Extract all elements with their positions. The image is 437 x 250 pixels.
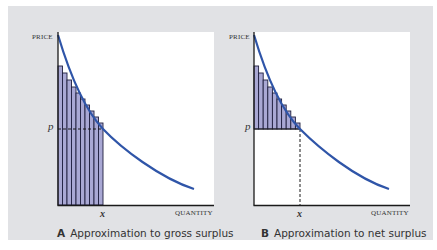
panel-b-y-axis-label: PRICE <box>229 33 250 41</box>
panel-a-caption-text: Approximation to gross surplus <box>70 227 233 239</box>
panel-b-letter: B <box>261 227 269 239</box>
panel-b-price-label: p <box>245 120 251 132</box>
panel-a-caption: AApproximation to gross surplus <box>57 227 234 239</box>
panel-a-x-axis-label: QUANTITY <box>175 209 213 217</box>
panel-a-price-label: p <box>48 120 54 132</box>
panel-b-caption: BApproximation to net surplus <box>261 227 427 239</box>
panel-b-quantity-label: x <box>297 208 302 219</box>
panel-b-x-axis-label: QUANTITY <box>371 209 409 217</box>
panel-a-letter: A <box>57 227 65 239</box>
panel-b-caption-text: Approximation to net surplus <box>274 227 427 239</box>
panel-a-y-axis-label: PRICE <box>32 33 53 41</box>
panel-a-quantity-label: x <box>100 208 105 219</box>
